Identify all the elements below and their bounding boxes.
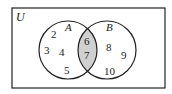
element-b-only: 9	[121, 49, 127, 61]
element-b-only: 10	[104, 65, 116, 77]
element-a-only: 4	[59, 46, 65, 58]
element-a-only: 5	[64, 64, 70, 76]
element-a-only: 3	[44, 44, 50, 56]
element-intersection: 6	[84, 35, 90, 47]
venn-diagram: U A B 2 3 4 5 6 7 8 9 10	[0, 0, 172, 94]
set-a-label: A	[64, 21, 72, 33]
universe-label: U	[16, 10, 26, 24]
element-a-only: 2	[51, 28, 57, 40]
element-intersection: 7	[84, 49, 90, 61]
element-b-only: 8	[106, 41, 112, 53]
set-b-label: B	[106, 21, 113, 33]
